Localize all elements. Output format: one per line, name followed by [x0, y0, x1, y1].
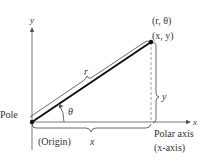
y-length-label: y — [161, 91, 167, 102]
y-axis-label: y — [29, 15, 34, 25]
x-length-label: x — [89, 136, 95, 147]
polar-point-label: (r, θ) — [152, 15, 171, 27]
pole-point — [30, 120, 34, 124]
polar-axis-label: Polar axis — [154, 128, 194, 139]
radius-label: r — [84, 66, 88, 77]
polar-coordinates-diagram: y x (r, θ) (x, y) r θ Pole (Origin) x y … — [0, 0, 201, 161]
radius-ray — [32, 42, 151, 122]
pole-label: Pole — [0, 109, 18, 120]
rect-point-label: (x, y) — [152, 30, 174, 42]
origin-label: (Origin) — [38, 136, 71, 148]
polar-axis-alias-label: (x-axis) — [154, 142, 185, 154]
angle-arc — [59, 104, 64, 122]
x-brace — [32, 124, 151, 132]
x-axis-label: x — [192, 117, 197, 127]
r-brace — [30, 41, 150, 117]
angle-label: θ — [68, 106, 73, 117]
y-brace — [151, 42, 159, 123]
